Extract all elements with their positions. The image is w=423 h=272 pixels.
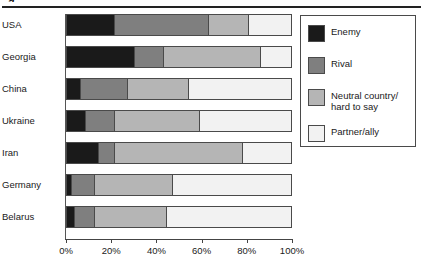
legend-label: Enemy: [331, 25, 361, 38]
bar-row: [66, 110, 292, 132]
bar-segment: [242, 143, 291, 163]
x-axis-tick-label: 40%: [147, 245, 166, 256]
legend-item: Neutral country/ hard to say: [308, 89, 398, 112]
bar-segment: [172, 175, 291, 195]
bar-segment: [134, 47, 163, 67]
bar-segment: [94, 207, 166, 227]
bar-segment: [80, 79, 127, 99]
legend-swatch: [308, 25, 325, 42]
chart-legend: EnemyRivalNeutral country/ hard to sayPa…: [300, 15, 416, 147]
legend-swatch: [308, 89, 325, 106]
bar-segment: [67, 47, 134, 67]
caption-fragment: g: [8, 0, 15, 2]
x-axis-tick: [111, 239, 112, 243]
bar-row: [66, 46, 292, 68]
bar-segment: [114, 15, 208, 35]
category-label: Belarus: [2, 206, 64, 228]
bar-segment: [114, 111, 199, 131]
x-axis-tick: [202, 239, 203, 243]
x-axis-tick: [247, 239, 248, 243]
stacked-bar: [66, 142, 292, 164]
legend-item: Rival: [308, 57, 352, 74]
stacked-bar: [66, 14, 292, 36]
figure-top-rule: [2, 6, 421, 8]
legend-swatch: [308, 57, 325, 74]
category-label: China: [2, 78, 64, 100]
plot-area: [66, 14, 292, 239]
legend-label: Rival: [331, 57, 352, 70]
category-label: Germany: [2, 174, 64, 196]
bar-segment: [114, 143, 242, 163]
category-label: Ukraine: [2, 110, 64, 132]
x-axis-tick: [292, 239, 293, 243]
x-axis-line: [65, 239, 292, 240]
stacked-bar: [66, 78, 292, 100]
legend-label: Neutral country/ hard to say: [331, 89, 398, 112]
bar-row: [66, 174, 292, 196]
legend-swatch: [308, 125, 325, 142]
bar-segment: [208, 15, 248, 35]
bar-row: [66, 14, 292, 36]
bar-segment: [127, 79, 187, 99]
legend-item: Enemy: [308, 25, 361, 42]
bar-segment: [260, 47, 291, 67]
bar-segment: [67, 143, 98, 163]
x-axis-tick-label: 20%: [102, 245, 121, 256]
bar-segment: [67, 111, 85, 131]
bar-segment: [248, 15, 291, 35]
bar-row: [66, 142, 292, 164]
bar-segment: [74, 207, 94, 227]
x-axis-tick-label: 80%: [237, 245, 256, 256]
bar-segment: [166, 207, 291, 227]
bar-segment: [67, 207, 74, 227]
bar-row: [66, 78, 292, 100]
bar-segment: [67, 15, 114, 35]
stacked-bar: [66, 110, 292, 132]
bar-segment: [85, 111, 114, 131]
bar-segment: [188, 79, 291, 99]
bar-segment: [163, 47, 259, 67]
x-axis-tick: [66, 239, 67, 243]
stacked-bar: [66, 206, 292, 228]
figure-container: g USAGeorgiaChinaUkraineIranGermanyBelar…: [0, 0, 423, 272]
bar-segment: [67, 79, 80, 99]
bar-row: [66, 206, 292, 228]
category-label: Georgia: [2, 46, 64, 68]
bar-segment: [199, 111, 291, 131]
stacked-bar: [66, 46, 292, 68]
category-label: Iran: [2, 142, 64, 164]
x-axis-tick-label: 0%: [59, 245, 73, 256]
bar-segment: [94, 175, 172, 195]
x-axis-tick-label: 100%: [280, 245, 304, 256]
x-axis-tick: [156, 239, 157, 243]
x-axis-tick-label: 60%: [192, 245, 211, 256]
legend-label: Partner/ally: [331, 125, 379, 138]
bar-segment: [71, 175, 93, 195]
legend-item: Partner/ally: [308, 125, 379, 142]
category-label: USA: [2, 14, 64, 36]
bar-segment: [98, 143, 114, 163]
stacked-bar: [66, 174, 292, 196]
